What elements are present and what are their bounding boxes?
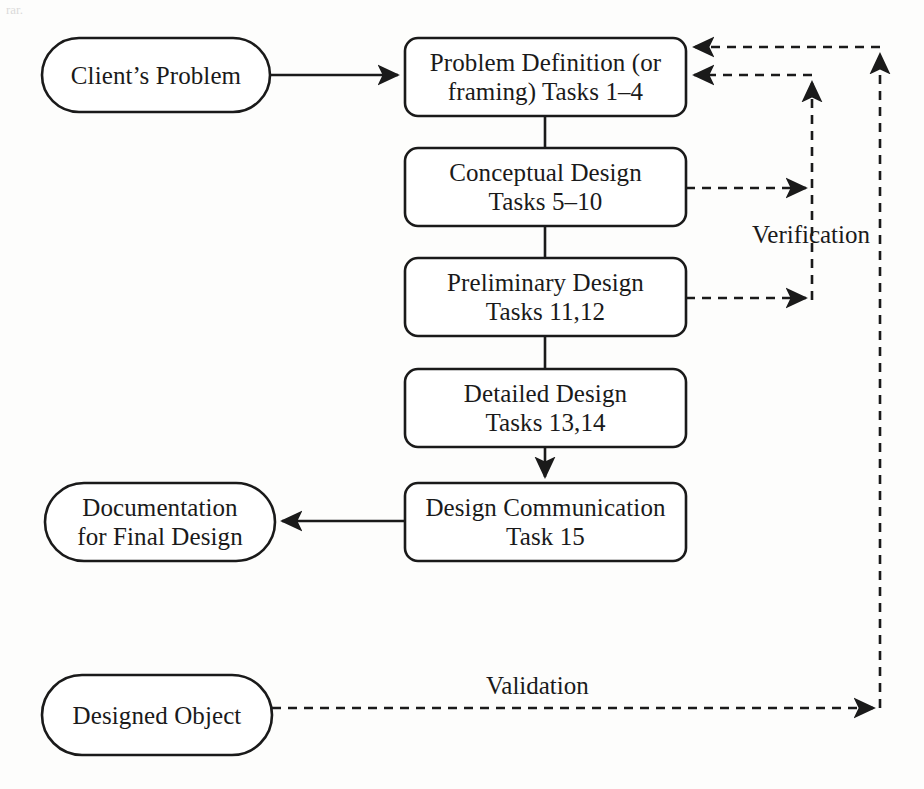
diagram-canvas: Client’s Problem Problem Definition (or …	[0, 0, 924, 789]
node-shape-preliminary-design[interactable]	[405, 258, 686, 336]
node-shape-problem-definition[interactable]	[405, 38, 686, 116]
node-shape-detailed-design[interactable]	[405, 369, 686, 447]
flowchart-graphic	[0, 0, 924, 789]
node-shapes	[42, 38, 686, 755]
node-shape-clients-problem[interactable]	[42, 38, 270, 112]
node-shape-documentation[interactable]	[45, 483, 275, 561]
node-shape-conceptual-design[interactable]	[405, 148, 686, 226]
node-shape-design-communication[interactable]	[405, 483, 686, 561]
node-shape-designed-object[interactable]	[42, 675, 272, 755]
verification-loop-edges	[686, 75, 812, 300]
